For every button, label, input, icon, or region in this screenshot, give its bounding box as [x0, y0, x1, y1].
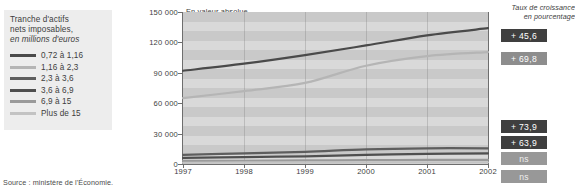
legend-item-label: 1,16 à 2,3 — [41, 63, 78, 72]
legend-swatch — [10, 54, 36, 57]
legend-swatch — [10, 100, 36, 103]
legend-panel: Tranche d'actifs nets imposables, en mil… — [4, 10, 112, 130]
legend-swatch — [10, 66, 36, 69]
plot-area — [183, 12, 488, 164]
growth-rate-box: + 69,8 — [501, 52, 547, 65]
x-axis-tick-label: 1997 — [174, 167, 192, 176]
legend-item: 2,3 à 3,6 — [10, 73, 108, 85]
legend-item: Plus de 15 — [10, 108, 108, 120]
series-line — [183, 160, 488, 161]
x-axis-tick-label: 2001 — [418, 167, 436, 176]
growth-rate-box: ns — [501, 170, 547, 183]
legend-swatch — [10, 89, 36, 92]
x-axis-tick-mark — [427, 164, 428, 168]
growth-rate-box: + 45,6 — [501, 29, 547, 42]
x-axis-tick-label: 1998 — [235, 167, 253, 176]
x-axis-tick-mark — [244, 164, 245, 168]
y-axis-tick-label: 60 000 — [154, 99, 178, 108]
series-line — [183, 162, 488, 163]
series-line — [183, 52, 488, 98]
x-axis-tick-label: 2000 — [357, 167, 375, 176]
legend-item: 1,16 à 2,3 — [10, 61, 108, 73]
plot-right-border — [488, 12, 489, 164]
legend-item-label: 2,3 à 3,6 — [41, 74, 74, 83]
growth-rate-box: ns — [501, 152, 547, 165]
y-axis-tick-label: 120 000 — [149, 38, 178, 47]
legend-swatch — [10, 77, 36, 80]
legend-item-label: Plus de 15 — [41, 109, 81, 118]
legend-item: 0,72 à 1,16 — [10, 50, 108, 62]
y-axis-tick-label: 30 000 — [154, 129, 178, 138]
x-axis-tick-label: 1999 — [296, 167, 314, 176]
legend-title: Tranche d'actifs nets imposables, en mil… — [10, 15, 108, 46]
growth-rate-header: Taux de croissance en pourcentage — [497, 4, 575, 21]
legend-item-label: 3,6 à 6,9 — [41, 86, 74, 95]
legend-item-label: 6,9 à 15 — [41, 97, 71, 106]
y-axis-tick-label: 150 000 — [149, 8, 178, 17]
growth-rate-box: + 73,9 — [501, 120, 547, 133]
y-axis-labels: 030 00060 00090 000120 000150 000 — [120, 12, 178, 164]
y-axis-tick-label: 90 000 — [154, 68, 178, 77]
legend-swatch — [10, 112, 36, 115]
legend-item-label: 0,72 à 1,16 — [41, 51, 83, 60]
x-axis-tick-mark — [183, 164, 184, 168]
series-lines — [183, 12, 488, 164]
growth-rate-header-line-2: en pourcentage — [497, 13, 575, 22]
x-axis-tick-mark — [305, 164, 306, 168]
x-axis-tick-label: 2002 — [479, 167, 497, 176]
x-axis-tick-mark — [488, 164, 489, 168]
series-line — [183, 28, 488, 71]
chart-figure: Tranche d'actifs nets imposables, en mil… — [0, 0, 575, 193]
legend-title-line-1: Tranche d'actifs — [10, 15, 108, 25]
legend-item-list: 0,72 à 1,161,16 à 2,32,3 à 3,63,6 à 6,96… — [8, 50, 108, 120]
legend-item: 6,9 à 15 — [10, 96, 108, 108]
x-axis-line — [182, 164, 489, 165]
source-note: Source : ministère de l'Économie. — [3, 178, 113, 187]
legend-item: 3,6 à 6,9 — [10, 84, 108, 96]
growth-rate-box: + 63,9 — [501, 136, 547, 149]
x-axis-tick-mark — [366, 164, 367, 168]
legend-title-line-3: en millions d'euros — [10, 35, 108, 45]
legend-title-line-2: nets imposables, — [10, 25, 108, 35]
